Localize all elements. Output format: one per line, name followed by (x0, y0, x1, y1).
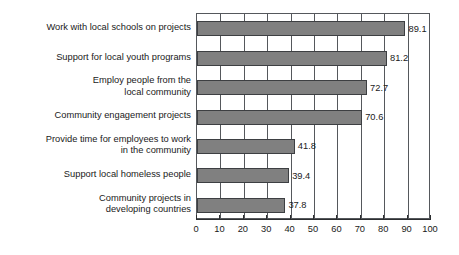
category-label: Community engagement projects (0, 110, 191, 121)
category-label: Support local homeless people (0, 169, 191, 180)
x-axis-tick-label: 50 (308, 224, 318, 235)
gridline (408, 14, 409, 218)
category-label: Work with local schools on projects (0, 22, 191, 33)
bar (197, 110, 362, 125)
x-axis-tick-label: 10 (214, 224, 224, 235)
category-label: Provide time for employees to work in th… (0, 134, 191, 156)
x-axis-tick-label: 90 (401, 224, 411, 235)
bar (197, 51, 387, 66)
x-axis-tick (383, 215, 384, 220)
bar (197, 21, 405, 36)
bar (197, 80, 367, 95)
category-axis-labels: Work with local schools on projectsSuppo… (0, 13, 191, 219)
x-axis-tick (336, 215, 337, 220)
bar (197, 198, 285, 213)
x-axis-tick-label: 30 (261, 224, 271, 235)
category-label: Community projects in developing countri… (0, 193, 191, 215)
x-axis-tick (219, 215, 220, 220)
bar-value-label: 39.4 (292, 171, 310, 181)
x-axis-tick (266, 215, 267, 220)
x-axis-tick (313, 215, 314, 220)
x-axis-tick-label: 100 (422, 224, 438, 235)
bar-value-label: 37.8 (288, 200, 306, 210)
x-axis-tick-label: 0 (193, 224, 198, 235)
x-axis-tick-label: 60 (331, 224, 341, 235)
bar-value-label: 81.2 (390, 53, 408, 63)
bar (197, 168, 289, 183)
x-axis-tick (196, 215, 197, 220)
bar-chart: Work with local schools on projectsSuppo… (0, 0, 459, 255)
x-axis-tick (407, 215, 408, 220)
x-axis-tick-label: 20 (238, 224, 248, 235)
x-axis-tick-label: 80 (378, 224, 388, 235)
x-axis-tick (430, 215, 431, 220)
x-axis-tick-label: 40 (284, 224, 294, 235)
x-axis-tick-label: 70 (355, 224, 365, 235)
bar-value-label: 72.7 (370, 83, 388, 93)
bar (197, 139, 295, 154)
bar-value-label: 89.1 (408, 24, 426, 34)
category-label: Support for local youth programs (0, 52, 191, 63)
x-axis: 0102030405060708090100 (196, 219, 430, 255)
x-axis-tick (243, 215, 244, 220)
bar-value-label: 70.6 (365, 112, 383, 122)
bar-value-label: 41.8 (298, 141, 316, 151)
x-axis-tick (360, 215, 361, 220)
plot-area: 89.181.272.770.641.839.437.8 (196, 13, 430, 219)
x-axis-tick (290, 215, 291, 220)
gridline (384, 14, 385, 218)
category-label: Employ people from the local community (0, 75, 191, 97)
